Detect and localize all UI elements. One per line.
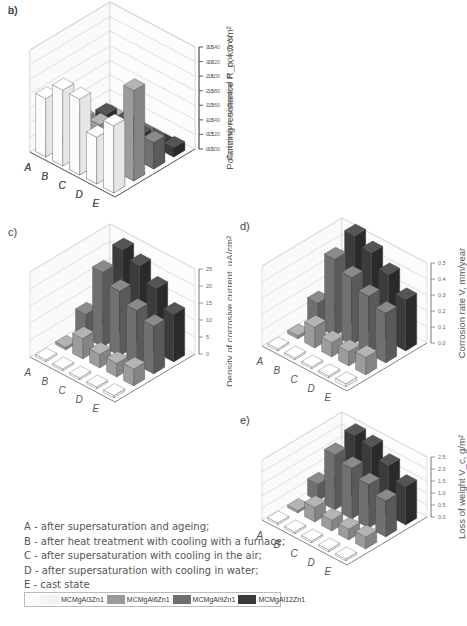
legend-item-3zn1: MCMgAl3Zn1 [25, 595, 104, 604]
svg-text:2.5: 2.5 [438, 454, 446, 460]
svg-text:0.0: 0.0 [438, 340, 446, 346]
legend-swatch [25, 595, 59, 604]
svg-text:0.5: 0.5 [206, 131, 214, 137]
note-e: E - cast state [24, 578, 285, 593]
chart-panel-b: 0.00.51.01.52.02.53.03.5Polarizing resis… [0, 0, 235, 222]
legend-swatch [173, 595, 191, 604]
svg-text:A: A [256, 356, 264, 367]
svg-text:Loss of weight V_c, g/m²: Loss of weight V_c, g/m² [456, 435, 467, 539]
svg-text:Density of corrosive current,: Density of corrosive current, µA/cm² [224, 236, 232, 387]
legend-swatch [107, 595, 125, 604]
svg-text:2.0: 2.0 [438, 466, 446, 472]
note-b: B - after heat treatment with cooling wi… [24, 535, 285, 550]
svg-text:e): e) [240, 414, 250, 426]
svg-text:25: 25 [206, 266, 212, 272]
svg-text:Polarizing resistance R_p, kΩ: Polarizing resistance R_p, kΩ cm² [224, 26, 235, 169]
svg-text:d): d) [240, 220, 250, 232]
svg-text:2.0: 2.0 [206, 88, 214, 94]
legend-item-12zn1: MCMgAl12Zn1 [238, 595, 305, 604]
svg-text:E: E [325, 566, 332, 577]
svg-text:0.0: 0.0 [438, 514, 446, 520]
svg-text:2.5: 2.5 [206, 73, 214, 79]
svg-text:0.5: 0.5 [438, 502, 446, 508]
svg-text:B: B [42, 376, 49, 387]
svg-text:0.5: 0.5 [438, 260, 446, 266]
note-a: A - after supersaturation and ageing; [24, 520, 285, 535]
svg-text:D: D [76, 394, 83, 405]
svg-text:0.1: 0.1 [438, 324, 446, 330]
svg-text:c): c) [8, 226, 17, 238]
note-d: D - after supersaturation with cooling i… [24, 564, 285, 579]
svg-text:E: E [93, 403, 100, 414]
svg-text:1.5: 1.5 [438, 478, 446, 484]
legend-swatch [238, 595, 256, 604]
svg-text:E: E [93, 198, 100, 209]
svg-text:A: A [24, 162, 32, 173]
legend: MCMgAl3Zn1 MCMgAl6Zn1 MCMgAl9Zn1 MCMgAl1… [24, 592, 281, 607]
svg-text:3.0: 3.0 [206, 59, 214, 65]
svg-text:5: 5 [206, 334, 209, 340]
svg-text:b): b) [8, 4, 18, 16]
svg-text:15: 15 [206, 300, 212, 306]
svg-text:Corrosion rate V, mm/year: Corrosion rate V, mm/year [456, 248, 467, 359]
chart-panel-d: 0.00.10.20.30.40.5Corrosion rate V, mm/y… [232, 216, 467, 416]
svg-text:1.5: 1.5 [206, 102, 214, 108]
svg-text:1.0: 1.0 [438, 490, 446, 496]
chart-panel-c: 0510152025Density of corrosive current, … [0, 222, 232, 427]
svg-text:3.5: 3.5 [206, 44, 214, 50]
svg-text:D: D [76, 189, 83, 200]
svg-text:A: A [24, 367, 32, 378]
svg-text:10: 10 [206, 317, 212, 323]
note-c: C - after supersaturation with cooling i… [24, 549, 285, 564]
svg-text:D: D [308, 557, 315, 568]
svg-text:0.3: 0.3 [438, 292, 446, 298]
legend-item-9zn1: MCMgAl9Zn1 [173, 595, 236, 604]
svg-text:C: C [59, 385, 67, 396]
svg-text:0.0: 0.0 [206, 146, 214, 152]
svg-text:B: B [274, 365, 281, 376]
svg-text:C: C [59, 180, 67, 191]
legend-item-6zn1: MCMgAl6Zn1 [107, 595, 170, 604]
svg-text:C: C [291, 548, 299, 559]
svg-text:E: E [325, 392, 332, 403]
svg-text:1.0: 1.0 [206, 117, 214, 123]
svg-text:B: B [42, 171, 49, 182]
svg-text:D: D [308, 383, 315, 394]
svg-text:20: 20 [206, 283, 212, 289]
svg-text:0.4: 0.4 [438, 276, 446, 282]
category-notes: A - after supersaturation and ageing; B … [24, 520, 285, 593]
svg-text:C: C [291, 374, 299, 385]
svg-text:0.2: 0.2 [438, 308, 446, 314]
svg-text:0: 0 [206, 351, 209, 357]
